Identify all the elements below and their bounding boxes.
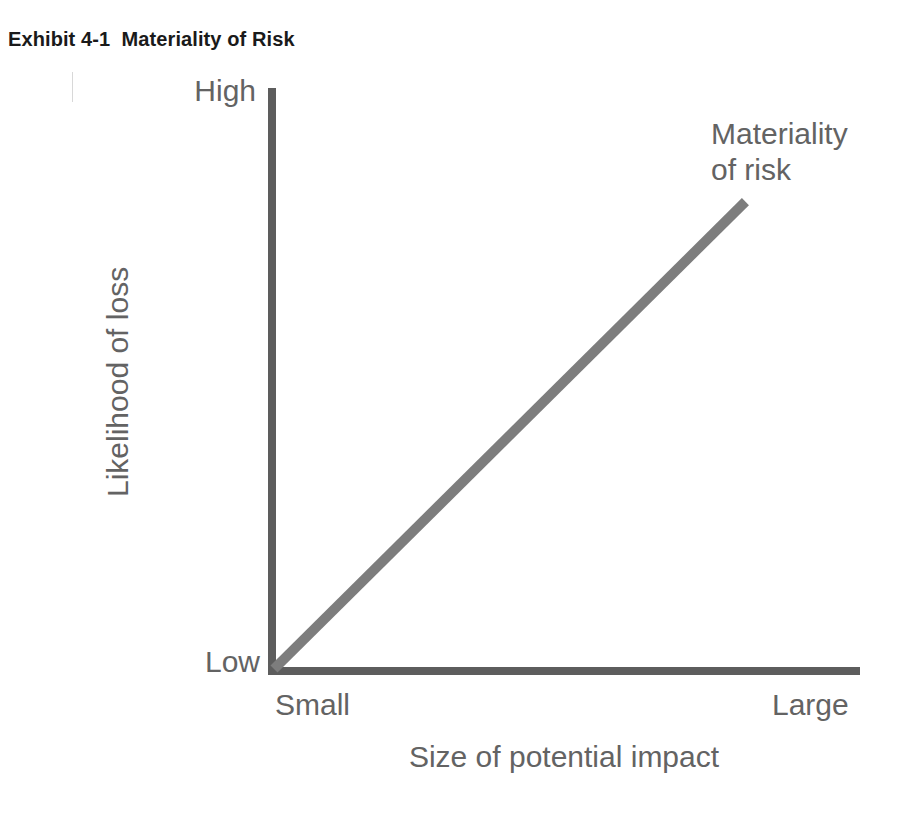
series-annotation-line-1: Materiality [711,116,848,152]
materiality-of-risk-line [274,202,745,669]
y-axis-tick-low: Low [205,645,260,679]
y-axis-title: Likelihood of loss [101,267,135,497]
series-annotation-line-2: of risk [711,152,848,188]
x-axis-tick-large: Large [772,688,849,722]
y-axis-tick-high: High [194,74,256,108]
x-axis-title: Size of potential impact [268,740,860,774]
series-annotation: Materiality of risk [711,116,848,188]
materiality-of-risk-chart: High Low Small Large Likelihood of loss … [0,0,900,815]
x-axis-tick-small: Small [275,688,350,722]
